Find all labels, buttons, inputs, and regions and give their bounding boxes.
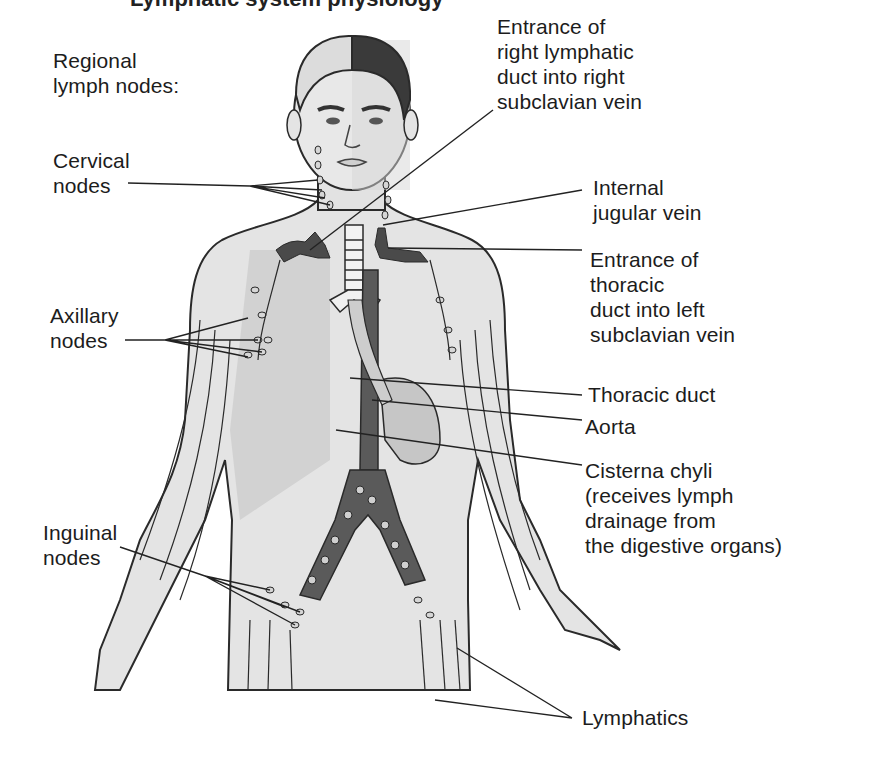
label-regional-lymph-nodes: Regional lymph nodes: — [53, 48, 179, 98]
label-inguinal-nodes: Inguinal nodes — [43, 520, 117, 570]
label-thoracic-duct-entrance: Entrance of thoracic duct into left subc… — [590, 247, 735, 347]
label-right-lymphatic-duct-entrance: Entrance of right lymphatic duct into ri… — [497, 14, 642, 114]
label-cervical-nodes: Cervical nodes — [53, 148, 130, 198]
head — [287, 36, 418, 190]
label-lymphatics: Lymphatics — [582, 705, 688, 730]
label-cisterna-chyli: Cisterna chyli (receives lymph drainage … — [585, 458, 782, 558]
leader-cervical — [128, 180, 330, 205]
label-aorta: Aorta — [585, 414, 636, 439]
leader-internal-jugular — [383, 190, 582, 225]
label-axillary-nodes: Axillary nodes — [50, 303, 118, 353]
label-internal-jugular-vein: Internal jugular vein — [593, 175, 702, 225]
label-thoracic-duct: Thoracic duct — [588, 382, 715, 407]
lymphatic-system-illustration — [0, 0, 876, 768]
trachea — [345, 225, 363, 290]
